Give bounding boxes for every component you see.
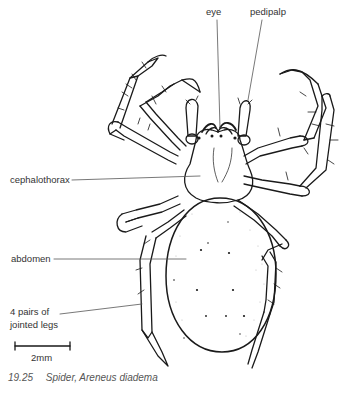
pedipalp-label: pedipalp [250, 6, 286, 18]
spider-illustration [0, 0, 346, 396]
cephalothorax-leader [72, 176, 200, 180]
abdomen-label: abdomen [11, 253, 51, 265]
leader-lines [54, 20, 262, 314]
legs-label-line1: 4 pairs of [10, 306, 49, 318]
cephalothorax-label: cephalothorax [10, 174, 70, 186]
spider-diagram: eye pedipalp cephalothorax abdomen 4 pai… [0, 0, 346, 396]
eyes [197, 135, 236, 140]
pedipalp-leader [248, 20, 262, 100]
scale-bar-label: 2mm [31, 352, 52, 364]
abdomen-stipple [175, 211, 264, 336]
abdomen [166, 198, 276, 352]
eye-label: eye [206, 6, 221, 18]
scale-bar [15, 342, 70, 350]
right-leg-3 [234, 200, 288, 260]
legs-leader [60, 304, 142, 314]
left-leg-3 [117, 196, 180, 232]
eye-leader [217, 20, 220, 128]
figure-title: Spider, Areneus diadema [46, 372, 158, 383]
figure-caption: 19.25 Spider, Areneus diadema [8, 372, 158, 383]
right-leg-2 [244, 94, 334, 196]
right-leg-4 [248, 252, 276, 368]
legs-label-line2: jointed legs [10, 319, 58, 331]
abdomen-markings [173, 221, 245, 338]
figure-number: 19.25 [8, 372, 33, 383]
right-leg-1 [244, 70, 326, 164]
left-leg-4 [140, 210, 186, 366]
